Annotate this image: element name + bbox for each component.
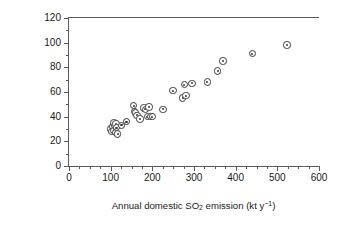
data-point-marker xyxy=(283,41,290,48)
x-axis-major-tick xyxy=(319,166,320,171)
x-axis-title-part1: Annual domestic SO xyxy=(112,200,199,211)
data-point-marker xyxy=(114,130,121,137)
x-axis-minor-tick xyxy=(132,166,133,169)
x-axis-minor-tick xyxy=(288,166,289,169)
x-axis-tick-label: 100 xyxy=(102,173,119,183)
x-axis-tick-label: 200 xyxy=(144,173,161,183)
x-axis-title-part3: ) xyxy=(272,200,275,211)
x-axis-minor-tick xyxy=(121,166,122,169)
data-point-marker xyxy=(181,81,188,88)
x-axis-minor-tick xyxy=(163,166,164,169)
data-point-marker xyxy=(145,103,152,110)
x-axis-title-superscript: −1 xyxy=(264,200,272,207)
data-point-marker xyxy=(214,67,221,74)
y-axis-tick-label: 60 xyxy=(50,87,61,97)
x-axis-minor-tick xyxy=(309,166,310,169)
x-axis-minor-tick xyxy=(184,166,185,169)
y-axis-tick-label: 20 xyxy=(50,136,61,146)
x-axis-tick-label: 500 xyxy=(269,173,286,183)
x-axis-title-part2: emission (kt y xyxy=(203,200,264,211)
x-axis-tick-label: 0 xyxy=(66,173,72,183)
y-axis-tick-label: 0 xyxy=(55,161,61,171)
data-point-marker xyxy=(249,50,256,57)
x-axis-minor-tick xyxy=(142,166,143,169)
x-axis-tick-label: 400 xyxy=(227,173,244,183)
x-axis-minor-tick xyxy=(90,166,91,169)
x-axis-minor-tick xyxy=(298,166,299,169)
x-axis-major-tick xyxy=(194,166,195,171)
data-point-marker xyxy=(123,118,130,125)
x-axis-minor-tick xyxy=(79,166,80,169)
y-axis-tick-label: 80 xyxy=(50,62,61,72)
x-axis-minor-tick xyxy=(225,166,226,169)
x-axis-major-tick xyxy=(152,166,153,171)
y-axis-tick-label: 40 xyxy=(50,112,61,122)
data-point-marker xyxy=(204,78,211,85)
data-point-marker xyxy=(182,92,189,99)
data-points-layer xyxy=(69,18,319,166)
data-point-marker xyxy=(188,80,195,87)
plot-area: 020406080100120 0100200300400500600 xyxy=(68,17,319,167)
x-axis-minor-tick xyxy=(204,166,205,169)
data-point-marker xyxy=(219,57,226,64)
scatter-plot-figure: urban SO2 concentration (µg m−3) 0204060… xyxy=(0,0,338,227)
x-axis-minor-tick xyxy=(215,166,216,169)
x-axis-major-tick xyxy=(69,166,70,171)
x-axis-minor-tick xyxy=(100,166,101,169)
x-axis-major-tick xyxy=(277,166,278,171)
x-axis-title: Annual domestic SO2 emission (kt y−1) xyxy=(68,198,319,214)
x-axis-major-tick xyxy=(236,166,237,171)
y-axis-tick-label: 100 xyxy=(44,38,61,48)
data-point-marker xyxy=(136,115,143,122)
x-axis-minor-tick xyxy=(257,166,258,169)
x-axis-tick-label: 600 xyxy=(311,173,328,183)
x-axis-minor-tick xyxy=(267,166,268,169)
x-axis-major-tick xyxy=(111,166,112,171)
data-point-marker xyxy=(169,87,176,94)
x-axis-minor-tick xyxy=(173,166,174,169)
data-point-marker xyxy=(149,113,156,120)
data-point-marker xyxy=(159,106,166,113)
y-axis-tick-label: 120 xyxy=(44,13,61,23)
x-axis-minor-tick xyxy=(246,166,247,169)
x-axis-tick-label: 300 xyxy=(186,173,203,183)
